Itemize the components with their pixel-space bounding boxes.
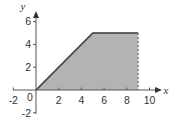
x-tick-label: 10 (144, 94, 156, 106)
y-axis-label: y (20, 0, 26, 12)
x-tick-label: 8 (124, 94, 130, 106)
chart-plot: -2 2 4 6 8 10 0 6 4 2 -2 x y (0, 0, 174, 125)
x-axis-arrow-icon (155, 87, 162, 93)
y-tick-label: -2 (22, 107, 31, 119)
x-tick-label: 2 (56, 94, 62, 106)
shaded-region (36, 33, 138, 90)
y-tick-label: 6 (25, 15, 31, 27)
origin-label: 0 (27, 91, 33, 103)
y-axis-arrow-icon (33, 11, 39, 18)
x-tick-label: 6 (101, 94, 107, 106)
x-axis-label: x (163, 84, 169, 96)
y-tick-label: 2 (25, 61, 31, 73)
y-tick-label: 4 (25, 38, 31, 50)
x-tick-label: -2 (9, 94, 18, 106)
x-tick-label: 4 (78, 94, 84, 106)
